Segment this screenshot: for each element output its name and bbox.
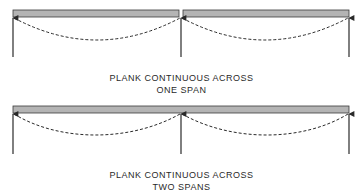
diagram-canvas [0, 0, 363, 194]
deflection-curve-left [14, 18, 180, 40]
caption-two-spans: PLANK CONTINUOUS ACROSS TWO SPANS [0, 169, 363, 193]
plank-continuous [13, 106, 349, 113]
deflection-curve-left [14, 114, 180, 135]
diagram-two-spans [13, 106, 349, 154]
caption-line-2: TWO SPANS [0, 181, 363, 193]
plank-right [183, 10, 349, 17]
diagram-one-span [13, 10, 349, 57]
deflection-curve-right [182, 114, 348, 135]
deflection-curve-right [182, 18, 348, 40]
plank-left [13, 10, 179, 17]
caption-line-1: PLANK CONTINUOUS ACROSS [0, 169, 363, 181]
caption-line-1: PLANK CONTINUOUS ACROSS [0, 72, 363, 84]
caption-line-2: ONE SPAN [0, 84, 363, 96]
caption-one-span: PLANK CONTINUOUS ACROSS ONE SPAN [0, 72, 363, 96]
